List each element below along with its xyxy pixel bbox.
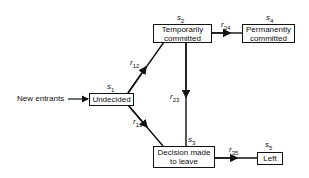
state-symbol-s5: s5 xyxy=(265,140,272,151)
rate-label-r35: r35 xyxy=(229,145,238,156)
state-label: Permanently committed xyxy=(243,25,294,43)
state-label: Undecided xyxy=(92,95,130,104)
state-box-undecided: Undecided xyxy=(89,93,134,106)
state-box-left: Left xyxy=(257,152,283,165)
rate-label-r23: r23 xyxy=(170,92,179,103)
state-box-decision-made-to-leave: Decision made to leave xyxy=(153,146,215,168)
state-symbol-s2: s2 xyxy=(177,13,184,24)
rate-label-r13: r13 xyxy=(133,117,142,128)
new-entrants-label: New entrants xyxy=(17,94,64,103)
state-box-temporarily-committed: Temporarily committed xyxy=(153,24,212,43)
state-symbol-s1: s1 xyxy=(107,82,114,93)
state-label: Left xyxy=(263,154,276,163)
rate-label-r24: r24 xyxy=(221,20,230,31)
state-box-permanently-committed: Permanently committed xyxy=(242,24,295,43)
state-label: Temporarily committed xyxy=(154,25,211,43)
rate-label-r12: r12 xyxy=(130,58,139,69)
state-symbol-s3: s3 xyxy=(188,135,195,146)
state-symbol-s4: s4 xyxy=(266,13,273,24)
state-label: Decision made to leave xyxy=(154,148,214,166)
